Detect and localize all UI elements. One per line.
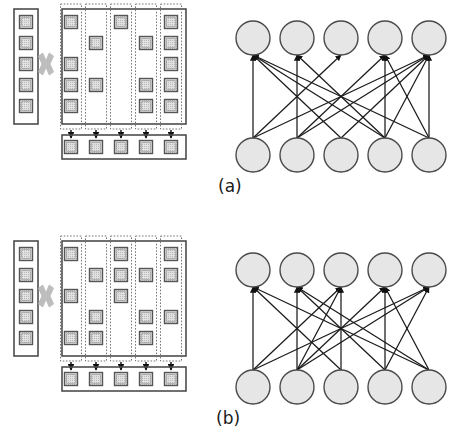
- network-node-input[interactable]: [368, 138, 402, 172]
- network-node-output[interactable]: [412, 21, 446, 55]
- network-node-input[interactable]: [280, 370, 314, 404]
- network-node-input[interactable]: [280, 138, 314, 172]
- network-node-input[interactable]: [412, 138, 446, 172]
- network-node-output[interactable]: [324, 21, 358, 55]
- network-node-output[interactable]: [368, 253, 402, 287]
- figure-canvas: (a) (b): [0, 0, 466, 438]
- network-node-input[interactable]: [236, 138, 270, 172]
- network-node-input[interactable]: [324, 370, 358, 404]
- network-node-output[interactable]: [236, 253, 270, 287]
- network-node-output[interactable]: [236, 21, 270, 55]
- network-node-output[interactable]: [324, 253, 358, 287]
- network-node-output[interactable]: [368, 21, 402, 55]
- network-node-input[interactable]: [236, 370, 270, 404]
- panel-a-label: (a): [218, 176, 242, 196]
- network-node-input[interactable]: [368, 370, 402, 404]
- network-node-input[interactable]: [412, 370, 446, 404]
- network-node-output[interactable]: [280, 21, 314, 55]
- network-node-output[interactable]: [412, 253, 446, 287]
- network-node-input[interactable]: [324, 138, 358, 172]
- figure-root: (a) (b): [0, 0, 466, 438]
- panel-b-label: (b): [216, 408, 240, 428]
- network-node-output[interactable]: [280, 253, 314, 287]
